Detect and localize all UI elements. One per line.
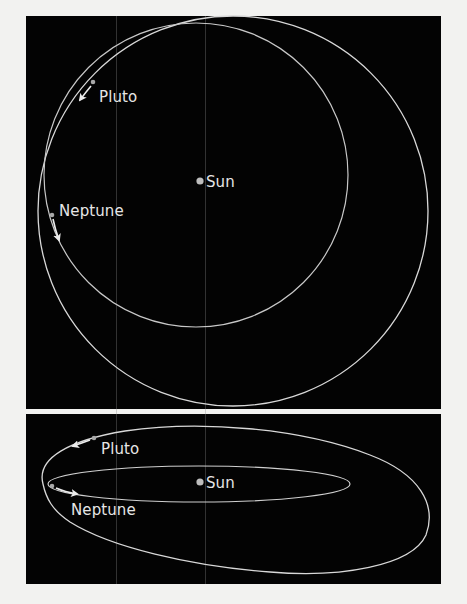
pluto-label-side: Pluto — [101, 440, 139, 458]
neptune-orbit-top — [44, 23, 348, 327]
neptune-label-side: Neptune — [71, 501, 136, 519]
pluto-dot-top — [91, 80, 96, 85]
pluto-label-top: Pluto — [99, 88, 137, 106]
neptune-label-top: Neptune — [59, 202, 124, 220]
neptune-dot-top — [50, 213, 55, 218]
sun-label-top: Sun — [206, 173, 235, 191]
sun-dot-side — [196, 478, 203, 485]
sun-dot-top — [196, 177, 203, 184]
pluto-dot-side — [92, 436, 97, 441]
sun-label-side: Sun — [206, 474, 235, 492]
neptune-dot-side — [50, 484, 55, 489]
